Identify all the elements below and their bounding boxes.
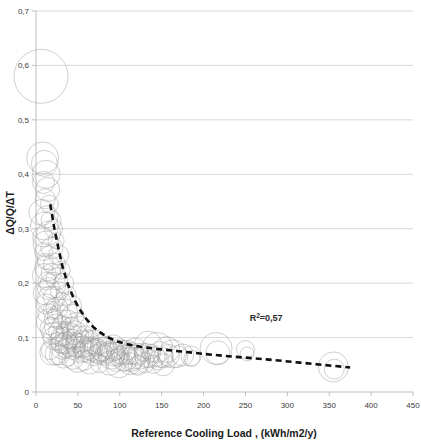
y-tick-label: 0,5 (18, 116, 30, 125)
y-tick-label: 0,4 (18, 170, 30, 179)
y-tick-label: 0 (25, 388, 30, 397)
y-tick-label: 0,2 (18, 279, 30, 288)
x-tick-label: 0 (34, 401, 39, 410)
bubble-scatter-plot: 050100150200250300350400450 00,10,20,30,… (0, 0, 421, 443)
annotations-group: R2=0,57 (250, 312, 283, 324)
y-tick-label: 0,3 (18, 225, 30, 234)
y-tick-label: 0,6 (18, 61, 30, 70)
x-tick-label: 100 (113, 401, 127, 410)
x-tick-label: 400 (364, 401, 378, 410)
x-tick-label: 50 (73, 401, 82, 410)
x-tick-label: 450 (406, 401, 420, 410)
chart-container: 050100150200250300350400450 00,10,20,30,… (0, 0, 421, 443)
y-tick-label: 0,7 (18, 7, 30, 16)
y-tick-label: 0,1 (18, 334, 30, 343)
chart-background (0, 0, 421, 443)
r-squared-annotation: R2=0,57 (250, 312, 283, 324)
x-axis-title: Reference Cooling Load , (kWh/m2/y) (131, 427, 317, 439)
y-axis-title: ΔQ/Q/ΔT (4, 191, 16, 235)
x-tick-label: 350 (323, 401, 337, 410)
x-tick-label: 200 (197, 401, 211, 410)
x-tick-label: 150 (155, 401, 169, 410)
x-tick-label: 300 (281, 401, 295, 410)
x-tick-label: 250 (239, 401, 253, 410)
